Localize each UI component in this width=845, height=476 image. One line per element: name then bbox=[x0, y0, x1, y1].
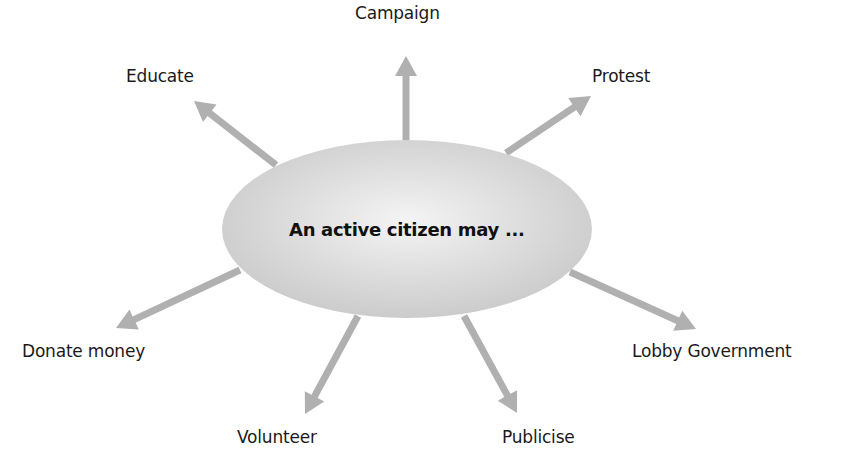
arrow-icon-campaign bbox=[395, 56, 417, 140]
node-label-protest: Protest bbox=[592, 66, 650, 86]
arrow-icon-lobby-government bbox=[569, 269, 696, 331]
node-label-volunteer: Volunteer bbox=[237, 427, 317, 447]
arrow-icon-volunteer bbox=[305, 314, 361, 414]
node-label-educate: Educate bbox=[126, 66, 194, 86]
node-label-lobby-government: Lobby Government bbox=[632, 341, 791, 361]
arrow-icon-donate-money bbox=[116, 267, 242, 330]
arrow-icon-protest bbox=[504, 96, 591, 156]
node-label-publicise: Publicise bbox=[502, 427, 575, 447]
arrow-icon-educate bbox=[194, 101, 278, 168]
node-label-campaign: Campaign bbox=[355, 3, 440, 23]
center-label: An active citizen may ... bbox=[289, 219, 525, 240]
node-label-donate-money: Donate money bbox=[22, 341, 145, 361]
arrow-icon-publicise bbox=[461, 314, 517, 413]
